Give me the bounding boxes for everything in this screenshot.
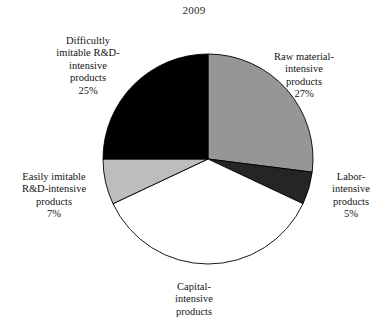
slice-label-raw-material-percent: 27%	[246, 88, 362, 101]
slice-label-difficultly-text: Difficultly imitable R&D- intensive prod…	[56, 35, 119, 84]
slice-label-easily-imitable: Easily imitable R&D-intensive products 7…	[2, 158, 106, 234]
slice-label-raw-material-text: Raw material- intensive products	[274, 51, 334, 87]
slice-label-capital-text: Capital- intensive products	[175, 281, 213, 317]
slice-label-easily-percent: 7%	[2, 208, 106, 221]
slice-label-capital-intensive: Capital- intensive products	[142, 268, 246, 326]
slice-label-difficultly-imitable: Difficultly imitable R&D- intensive prod…	[30, 22, 146, 110]
slice-label-difficultly-percent: 25%	[30, 85, 146, 98]
slice-label-raw-material: Raw material- intensive products 27%	[246, 38, 362, 114]
slice-label-easily-text: Easily imitable R&D-intensive products	[22, 171, 86, 207]
slice-label-labor-intensive: Labor- intensive products 5%	[316, 158, 386, 234]
slice-label-labor-text: Labor- intensive products	[332, 171, 370, 207]
slice-label-labor-percent: 5%	[316, 208, 386, 221]
pie-chart-figure: 2009 Difficultly imitable R&D- intensive…	[0, 0, 388, 326]
